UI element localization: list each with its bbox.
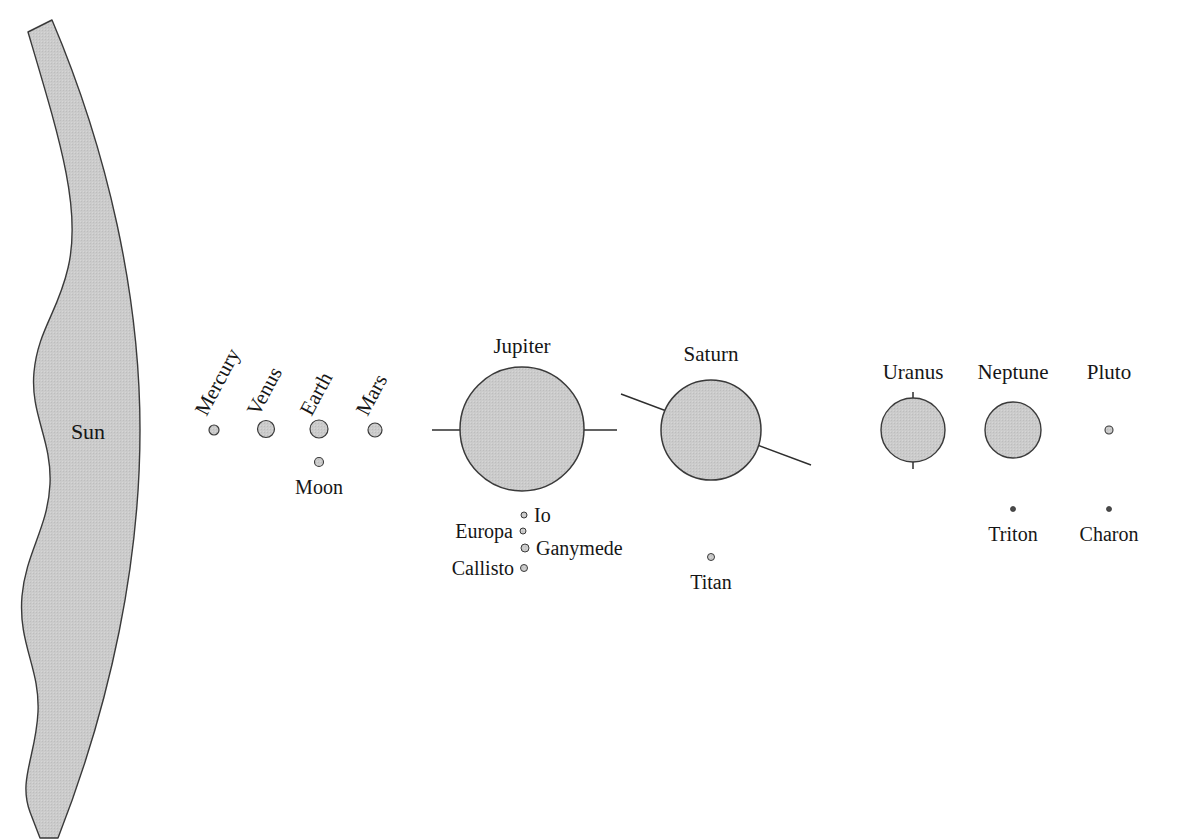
label-uranus: Uranus	[883, 362, 944, 383]
body-callisto[interactable]	[521, 565, 528, 572]
body-triton[interactable]	[1011, 507, 1016, 512]
label-sun: Sun	[71, 421, 105, 443]
body-europa[interactable]	[520, 528, 526, 534]
body-ganymede[interactable]	[521, 544, 529, 552]
body-saturn[interactable]	[661, 380, 761, 480]
body-neptune[interactable]	[985, 402, 1041, 458]
label-pluto: Pluto	[1087, 362, 1131, 383]
body-mars[interactable]	[368, 423, 382, 437]
label-europa: Europa	[455, 521, 513, 541]
body-moon[interactable]	[315, 458, 324, 467]
body-pluto[interactable]	[1105, 426, 1113, 434]
label-moon: Moon	[295, 477, 343, 497]
label-ganymede: Ganymede	[536, 538, 623, 558]
label-saturn: Saturn	[684, 344, 739, 365]
body-jupiter[interactable]	[460, 367, 584, 491]
body-charon[interactable]	[1107, 507, 1112, 512]
label-triton: Triton	[988, 524, 1037, 544]
label-io: Io	[534, 505, 551, 525]
label-charon: Charon	[1080, 524, 1139, 544]
label-titan: Titan	[690, 572, 732, 592]
label-jupiter: Jupiter	[493, 336, 550, 357]
body-io[interactable]	[521, 512, 527, 518]
body-titan[interactable]	[708, 554, 715, 561]
body-venus[interactable]	[258, 421, 275, 438]
label-callisto: Callisto	[452, 558, 514, 578]
label-neptune: Neptune	[977, 362, 1048, 383]
body-mercury[interactable]	[209, 425, 219, 435]
body-earth[interactable]	[310, 420, 328, 438]
body-uranus[interactable]	[881, 398, 945, 462]
solar-system-diagram: Sun Mercury Venus Earth Mars Moon Jupite…	[0, 0, 1183, 840]
diagram-canvas	[0, 0, 1183, 840]
bodies-group	[209, 367, 1113, 572]
